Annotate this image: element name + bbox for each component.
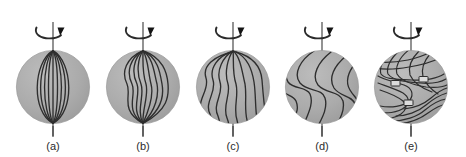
panel-caption: (a)	[46, 140, 59, 152]
panel-caption: (e)	[404, 140, 417, 152]
panel-caption: (c)	[227, 140, 240, 152]
panel-caption: (d)	[315, 140, 328, 152]
reconnection-marker	[404, 100, 413, 106]
figure-canvas: (a) (b)	[0, 0, 466, 157]
reconnection-marker	[391, 81, 400, 87]
reconnection-marker	[419, 77, 428, 83]
panel-caption: (b)	[136, 140, 149, 152]
figure-differential-rotation-sequence: (a) (b)	[0, 0, 466, 157]
